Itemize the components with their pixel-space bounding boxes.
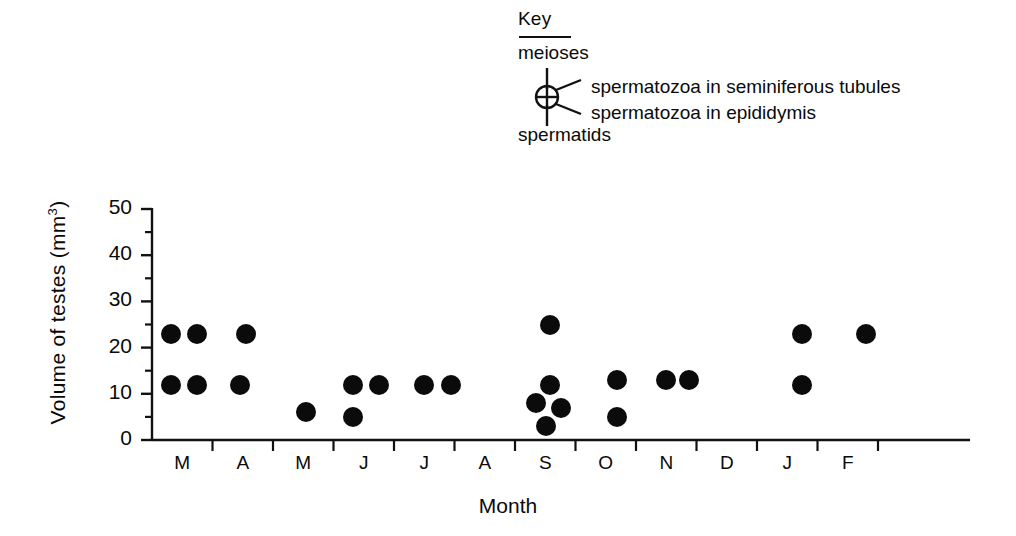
y-tick-label: 10 [86,380,132,404]
data-point [187,324,207,344]
y-tick-label: 0 [86,426,132,450]
data-point [187,375,207,395]
data-point [792,375,812,395]
x-tick-label-january: J [772,452,802,474]
x-tick-label-october: O [591,452,621,474]
x-tick-label-november: N [651,452,681,474]
x-tick-label-february: F [833,452,863,474]
plot-area: 01020304050MAMJJASONDJF [0,0,1016,536]
data-point [856,324,876,344]
x-tick-label-june: J [349,452,379,474]
data-point [343,407,363,427]
x-tick-label-may: M [288,452,318,474]
data-point [526,393,546,413]
data-point [540,375,560,395]
data-point [230,375,250,395]
data-point [607,370,627,390]
y-tick-label: 40 [86,241,132,265]
data-point [551,398,571,418]
y-tick-label: 30 [86,287,132,311]
x-tick-label-august: A [470,452,500,474]
figure-root: Key meioses spermatozoa in seminiferous … [0,0,1016,536]
data-point [540,315,560,335]
axis-lines [0,0,1016,536]
y-tick-label: 20 [86,334,132,358]
data-point [343,375,363,395]
x-tick-label-december: D [712,452,742,474]
data-point [792,324,812,344]
x-tick-label-april: A [228,452,258,474]
y-tick-label: 50 [86,195,132,219]
x-tick-label-july: J [409,452,439,474]
data-point [607,407,627,427]
data-point [369,375,389,395]
x-tick-label-march: M [167,452,197,474]
data-point [161,375,181,395]
data-point [414,375,434,395]
x-tick-label-september: S [530,452,560,474]
data-point [236,324,256,344]
data-point [441,375,461,395]
data-point [161,324,181,344]
